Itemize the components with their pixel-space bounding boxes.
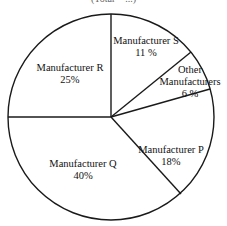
slice-label-s: Manufacturer S 11 %	[113, 35, 179, 59]
slice-label-other: Other Manufacturers 6 %	[159, 64, 220, 100]
slice-s-name: Manufacturer S	[113, 35, 179, 47]
pie-chart	[0, 0, 227, 226]
slice-r-name: Manufacturer R	[37, 62, 104, 74]
slice-q-name: Manufacturer Q	[49, 158, 116, 170]
slice-label-p: Manufacturer P 18%	[138, 144, 204, 168]
slice-q-percent: 40%	[49, 170, 116, 182]
slice-p-percent: 18%	[138, 156, 204, 168]
slice-p-name: Manufacturer P	[138, 144, 204, 156]
slice-other-name-line2: Manufacturers	[159, 76, 220, 88]
slice-other-name-line1: Other	[159, 64, 220, 76]
slice-s-percent: 11 %	[113, 47, 179, 59]
slice-r-percent: 25%	[37, 74, 104, 86]
slice-label-r: Manufacturer R 25%	[37, 62, 104, 86]
slice-label-q: Manufacturer Q 40%	[49, 158, 116, 182]
slice-other-percent: 6 %	[159, 88, 220, 100]
